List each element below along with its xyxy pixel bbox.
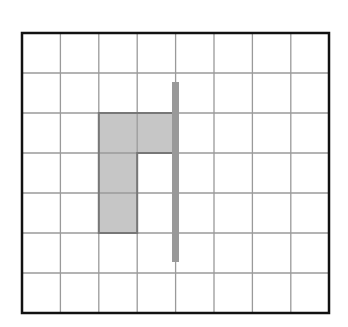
- shaded-cell: [99, 193, 137, 233]
- mirror-line: [172, 82, 179, 262]
- shaded-cell: [99, 113, 137, 153]
- grid-figure: [22, 33, 329, 313]
- shaded-cell: [99, 153, 137, 193]
- shaded-cell: [137, 113, 175, 153]
